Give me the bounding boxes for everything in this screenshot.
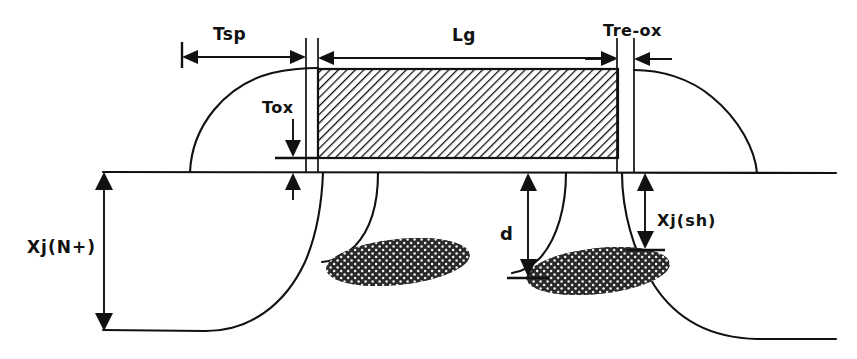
field-oxide-birdsbeak-right [634,70,757,173]
dimension-tre-ox: Tre-ox [585,21,672,66]
arrow-down-xjn [95,313,113,331]
label-xj-sh: Xj(sh) [657,211,716,230]
label-d: d [500,223,513,244]
label-tre-ox: Tre-ox [603,21,662,40]
arrow-left-treox [601,52,617,66]
label-lg: Lg [452,25,476,45]
arrow-right-treox [634,52,650,66]
arrow-down-xjsh [637,231,654,249]
dimension-tsp: Tsp [182,24,306,64]
gate-electrode [318,69,618,158]
dimension-xj-nplus: Xj(N+) [27,172,113,331]
arrow-left-lg [318,51,334,65]
field-oxide-birdsbeak-left [190,68,318,172]
arrow-up-d [520,173,537,191]
diagram-canvas: Tsp Lg Tre-ox Tox [0,0,857,359]
mosfet-cross-section-diagram: Tsp Lg Tre-ox Tox [0,0,857,359]
arrow-left-tsp [182,50,198,64]
dimension-xj-sh: Xj(sh) [627,173,716,250]
pocket-implant-left [324,232,472,293]
arrow-right-tsp [290,50,306,64]
arrow-down-tox [285,140,301,157]
substrate-surface-line [103,172,836,173]
arrow-up-tox [285,173,301,190]
dimension-lg: Lg [318,25,617,65]
arrow-up-xjsh [637,173,654,191]
label-xj-nplus: Xj(N+) [27,237,96,257]
arrow-up-xjn [95,172,113,190]
label-tox: Tox [262,98,294,117]
dimension-tox: Tox [262,98,318,200]
label-tsp: Tsp [213,24,246,44]
